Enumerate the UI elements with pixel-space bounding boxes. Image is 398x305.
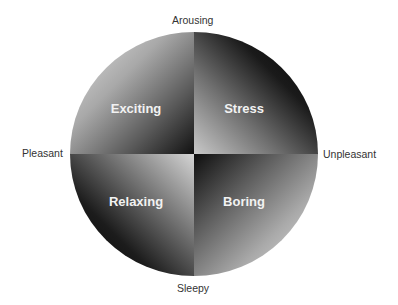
label-relaxing: Relaxing — [109, 194, 163, 209]
axis-label-sleepy: Sleepy — [177, 282, 209, 294]
quadrant-exciting — [70, 32, 194, 154]
affect-circle — [70, 32, 318, 276]
quadrant-boring — [194, 154, 318, 276]
axis-label-unpleasant: Unpleasant — [323, 148, 376, 160]
quadrant-stress — [194, 32, 318, 154]
axis-label-pleasant: Pleasant — [22, 147, 63, 159]
label-stress: Stress — [224, 101, 264, 116]
quadrant-relaxing — [70, 154, 194, 276]
label-boring: Boring — [223, 194, 265, 209]
label-exciting: Exciting — [111, 101, 162, 116]
axis-label-arousing: Arousing — [172, 14, 213, 26]
